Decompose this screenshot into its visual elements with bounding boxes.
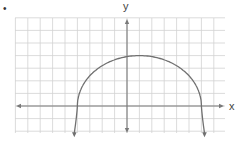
axes <box>16 19 224 133</box>
coordinate-plane <box>0 0 237 142</box>
grid-lines <box>15 18 225 133</box>
